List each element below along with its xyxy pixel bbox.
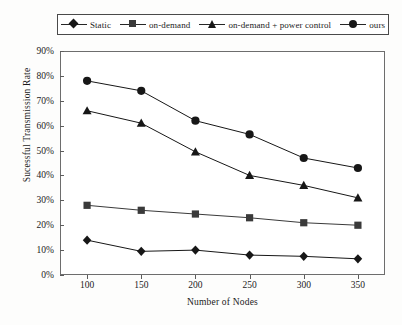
data-point	[83, 77, 91, 85]
y-tick-label: 20%	[24, 220, 54, 230]
legend-line-on-demand-power-control	[199, 20, 225, 29]
data-point	[245, 130, 253, 138]
x-tick-mark	[250, 275, 251, 279]
legend-item-on-demand: on-demand	[120, 20, 190, 30]
legend-line-on-demand	[120, 20, 146, 29]
data-point	[137, 247, 146, 256]
y-tick-mark	[60, 126, 64, 127]
legend-label-on-demand-power-control: on-demand + power control	[228, 20, 331, 30]
data-point	[191, 246, 200, 255]
x-tick-mark	[195, 275, 196, 279]
x-tick-label: 300	[284, 280, 324, 290]
data-point	[83, 236, 92, 245]
data-point	[191, 147, 200, 155]
y-tick-mark	[60, 76, 64, 77]
legend-label-static: Static	[90, 20, 111, 30]
series-2	[83, 202, 361, 229]
x-tick-mark	[141, 275, 142, 279]
legend-item-static: Static	[61, 20, 111, 30]
series-3	[83, 106, 363, 201]
y-tick-mark	[60, 250, 64, 251]
x-tick-label: 250	[230, 280, 270, 290]
y-tick-label: 10%	[24, 245, 54, 255]
y-tick-label: 0%	[24, 270, 54, 280]
series-line	[87, 81, 358, 168]
y-axis-title: Sucessful Transmission Rate	[22, 35, 32, 215]
data-point	[245, 171, 254, 179]
y-tick-mark	[60, 51, 64, 52]
x-tick-mark	[304, 275, 305, 279]
y-tick-mark	[60, 151, 64, 152]
circle-marker-icon	[349, 20, 357, 28]
chart-legend: Static on-demand on-demand + power contr…	[57, 14, 389, 35]
data-point	[354, 222, 361, 229]
series-line	[87, 205, 358, 225]
series-1	[83, 236, 362, 264]
legend-item-ours: ours	[340, 20, 385, 30]
triangle-marker-icon	[208, 20, 216, 28]
y-tick-mark	[60, 275, 64, 276]
data-point	[245, 250, 254, 259]
series-line	[87, 240, 358, 259]
data-point	[138, 207, 145, 214]
data-point	[246, 214, 253, 221]
y-tick-mark	[60, 200, 64, 201]
data-point	[299, 252, 308, 261]
data-point	[191, 117, 199, 125]
x-tick-label: 200	[175, 280, 215, 290]
legend-line-static	[61, 20, 87, 29]
y-tick-mark	[60, 175, 64, 176]
data-point	[192, 210, 199, 217]
x-tick-mark	[87, 275, 88, 279]
legend-label-ours: ours	[369, 20, 385, 30]
y-tick-mark	[60, 225, 64, 226]
data-point	[354, 254, 363, 263]
square-marker-icon	[129, 20, 136, 27]
diamond-marker-icon	[70, 20, 77, 27]
data-point	[300, 154, 308, 162]
y-tick-mark	[60, 101, 64, 102]
x-tick-mark	[358, 275, 359, 279]
data-point	[83, 202, 90, 209]
data-point	[300, 219, 307, 226]
x-tick-label: 350	[338, 280, 378, 290]
legend-line-ours	[340, 20, 366, 29]
data-point	[137, 87, 145, 95]
legend-label-on-demand: on-demand	[149, 20, 190, 30]
x-axis-title: Number of Nodes	[60, 297, 385, 307]
series-4	[83, 77, 362, 172]
plot-series-layer	[60, 51, 385, 275]
x-tick-label: 100	[67, 280, 107, 290]
x-tick-label: 150	[121, 280, 161, 290]
chart-figure: Static on-demand on-demand + power contr…	[0, 0, 402, 325]
data-point	[354, 164, 362, 172]
legend-item-on-demand-power-control: on-demand + power control	[199, 20, 331, 30]
series-line	[87, 111, 358, 198]
data-point	[83, 106, 92, 114]
